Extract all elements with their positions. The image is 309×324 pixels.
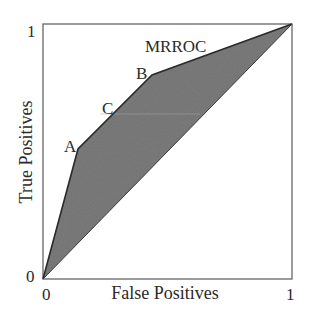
point-b-label: B xyxy=(136,64,147,83)
y-axis-title: True Positives xyxy=(16,101,36,204)
y-tick-1: 1 xyxy=(27,22,36,41)
x-axis-title: False Positives xyxy=(111,283,219,303)
mrroc-label: MRROC xyxy=(145,37,206,56)
roc-chart: A C B MRROC 1 0 0 1 False Positives True… xyxy=(0,0,309,324)
x-tick-0: 0 xyxy=(42,285,51,304)
point-c-label: C xyxy=(102,99,113,118)
x-tick-1: 1 xyxy=(286,285,295,304)
point-a-label: A xyxy=(64,137,77,156)
y-tick-0: 0 xyxy=(26,267,35,286)
